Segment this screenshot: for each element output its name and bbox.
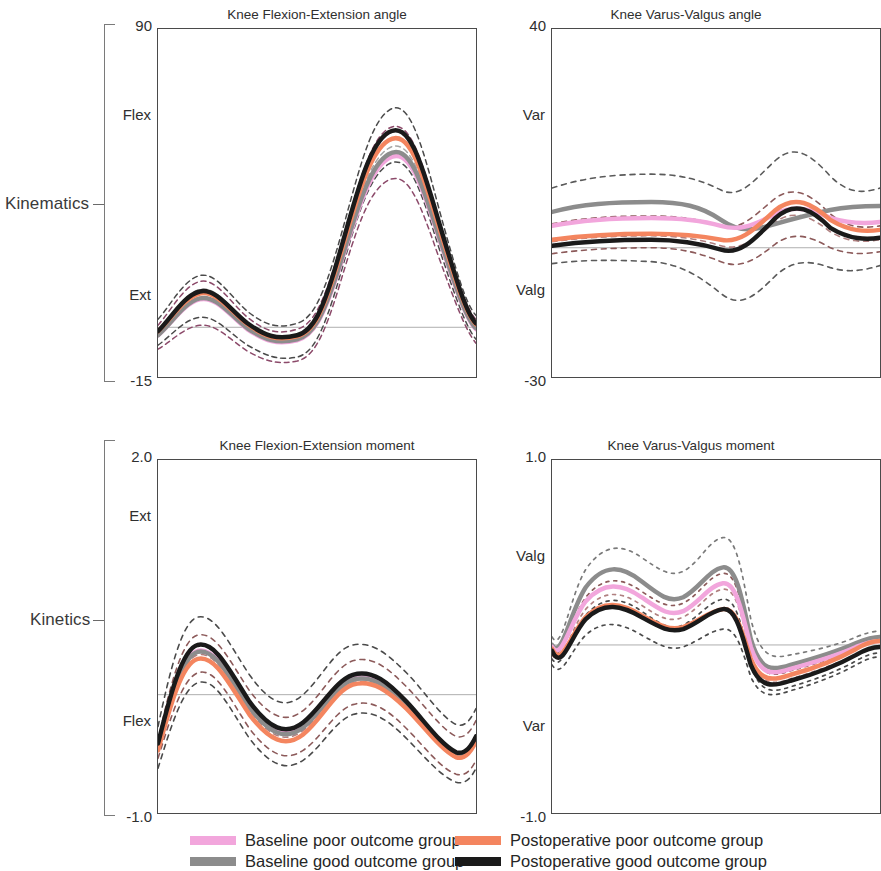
mean-curves bbox=[158, 130, 476, 342]
panel-knee-varus-valgus-moment: Knee Varus-Valgus moment 1.0 -1.0 Valg V… bbox=[551, 459, 881, 814]
y-axis-positive-direction-label: Valg bbox=[516, 547, 545, 564]
panel-title: Knee Varus-Valgus angle bbox=[551, 7, 821, 22]
plot-area bbox=[157, 28, 477, 378]
legend-swatch-icon bbox=[455, 836, 501, 845]
curve-baseline-good bbox=[552, 567, 880, 668]
y-axis-min-label: -1.0 bbox=[126, 808, 152, 825]
panel-title: Knee Flexion-Extension angle bbox=[157, 7, 477, 22]
y-axis-positive-direction-label: Ext bbox=[129, 507, 151, 524]
y-axis-min-label: -1.0 bbox=[520, 808, 546, 825]
row-label-kinematics: Kinematics bbox=[5, 194, 89, 214]
legend-item-postoperative-good: Postoperative good outcome group bbox=[455, 851, 850, 871]
curve-postoperative-good bbox=[158, 130, 476, 337]
curve-baseline-poor bbox=[158, 651, 476, 755]
sd-band-lines bbox=[158, 617, 476, 783]
sd-band-lines bbox=[552, 537, 880, 694]
y-axis-max-label: 2.0 bbox=[131, 448, 152, 465]
panel-title: Knee Flexion-Extension moment bbox=[157, 438, 477, 453]
panel-knee-varus-valgus-angle: Knee Varus-Valgus angle 40 -30 Var Valg bbox=[551, 28, 881, 378]
y-axis-negative-direction-label: Flex bbox=[123, 712, 151, 729]
plot-area bbox=[157, 459, 477, 814]
plot-area bbox=[551, 459, 881, 814]
y-axis-negative-direction-label: Var bbox=[523, 717, 545, 734]
y-axis-min-label: -30 bbox=[524, 372, 546, 389]
legend-label: Postoperative good outcome group bbox=[510, 852, 767, 871]
kinematics-bracket bbox=[104, 24, 115, 382]
legend-label: Postoperative poor outcome group bbox=[510, 831, 763, 850]
panel-knee-flexion-extension-moment: Knee Flexion-Extension moment 2.0 -1.0 E… bbox=[157, 459, 477, 814]
row-label-kinetics: Kinetics bbox=[30, 610, 90, 630]
curves-svg bbox=[158, 29, 476, 377]
y-axis-negative-direction-label: Valg bbox=[516, 281, 545, 298]
mean-curves bbox=[552, 202, 880, 251]
legend-swatch-icon bbox=[190, 857, 236, 866]
mean-curves bbox=[158, 645, 476, 758]
y-axis-positive-direction-label: Var bbox=[523, 106, 545, 123]
curves-svg bbox=[158, 460, 476, 813]
kinetics-tick bbox=[93, 620, 104, 621]
kinematics-tick bbox=[93, 204, 104, 205]
legend-item-postoperative-poor: Postoperative poor outcome group bbox=[455, 830, 850, 851]
y-axis-max-label: 1.0 bbox=[525, 448, 546, 465]
y-axis-negative-direction-label: Ext bbox=[129, 286, 151, 303]
curves-svg bbox=[552, 29, 880, 377]
y-axis-max-label: 90 bbox=[135, 17, 152, 34]
panel-knee-flexion-extension-angle: Knee Flexion-Extension angle 90 -15 Flex… bbox=[157, 28, 477, 378]
legend-swatch-icon bbox=[190, 836, 236, 845]
legend-swatch-icon bbox=[455, 857, 501, 866]
legend-label: Baseline poor outcome group bbox=[245, 831, 461, 850]
legend-label: Baseline good outcome group bbox=[245, 852, 464, 871]
y-axis-min-label: -15 bbox=[130, 372, 152, 389]
curves-svg bbox=[552, 460, 880, 813]
plot-area bbox=[551, 28, 881, 378]
legend-item-baseline-good: Baseline good outcome group bbox=[190, 851, 455, 871]
legend: Baseline poor outcome group Postoperativ… bbox=[190, 830, 850, 871]
y-axis-positive-direction-label: Flex bbox=[123, 106, 151, 123]
legend-item-baseline-poor: Baseline poor outcome group bbox=[190, 830, 455, 851]
panel-title: Knee Varus-Valgus moment bbox=[551, 438, 831, 453]
y-axis-max-label: 40 bbox=[529, 17, 546, 34]
kinetics-bracket bbox=[104, 440, 115, 816]
curve-baseline-good bbox=[158, 652, 476, 756]
